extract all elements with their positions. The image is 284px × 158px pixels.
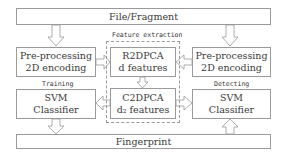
- arrow-down-icon: [48, 119, 64, 134]
- left-svm-classifier-box: SVM Classifier: [16, 89, 96, 119]
- arrow-down-icon: [222, 25, 238, 46]
- left-preprocessing-line1: Pre-processing: [20, 50, 92, 62]
- detecting-label: Detecting: [214, 80, 249, 88]
- training-label: Training: [42, 80, 73, 88]
- fingerprint-label: Fingerprint: [116, 136, 172, 148]
- right-svm-line1: SVM: [220, 92, 243, 104]
- left-svm-line1: SVM: [44, 92, 67, 104]
- right-svm-line2: Classifier: [209, 104, 254, 116]
- r2dpca-box: R2DPCA d features: [110, 47, 176, 77]
- c2dpca-box: C2DPCA d₂ features: [110, 88, 176, 119]
- file-fragment-box: File/Fragment: [16, 8, 271, 25]
- fingerprint-box: Fingerprint: [16, 134, 271, 149]
- r2dpca-line2: d features: [119, 62, 168, 74]
- arrow-up-icon: [222, 119, 238, 134]
- right-svm-classifier-box: SVM Classifier: [192, 89, 271, 119]
- feature-extraction-label: Feature extraction: [112, 31, 182, 39]
- c2dpca-line1: C2DPCA: [122, 92, 163, 104]
- left-preprocessing-box: Pre-processing 2D encoding: [16, 47, 96, 77]
- r2dpca-line1: R2DPCA: [122, 50, 163, 62]
- file-fragment-label: File/Fragment: [109, 11, 178, 23]
- right-preprocessing-line2: 2D encoding: [201, 62, 262, 74]
- arrow-down-icon: [48, 25, 64, 46]
- c2dpca-line2: d₂ features: [117, 104, 170, 116]
- right-preprocessing-box: Pre-processing 2D encoding: [192, 47, 271, 77]
- left-preprocessing-line2: 2D encoding: [26, 62, 87, 74]
- right-preprocessing-line1: Pre-processing: [195, 50, 267, 62]
- left-svm-line2: Classifier: [33, 104, 78, 116]
